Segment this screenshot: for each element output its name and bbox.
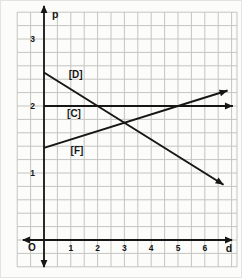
y-tick-label: 3: [30, 34, 35, 44]
series-label-d: [D]: [69, 69, 83, 80]
y-axis-label: p: [52, 8, 58, 20]
y-tick-label: 1: [30, 168, 35, 178]
x-tick-label: 4: [149, 243, 154, 253]
grid-lines: [17, 12, 237, 267]
series-label-f: [F]: [71, 145, 84, 156]
series-label-c: [C]: [67, 108, 81, 119]
x-tick-label: 5: [176, 243, 181, 253]
x-tick-label: 2: [95, 243, 100, 253]
chart-canvas: 123456123pdO[D][C][F]: [0, 0, 242, 278]
y-tick-label: 2: [30, 101, 35, 111]
x-tick-label: 1: [68, 243, 73, 253]
x-tick-label: 6: [202, 243, 207, 253]
series-arrow-f: [219, 87, 229, 96]
supply-demand-graph: 123456123pdO[D][C][F]: [0, 0, 242, 278]
origin-label: O: [28, 242, 36, 253]
x-tick-label: 3: [122, 243, 127, 253]
axes: [23, 6, 232, 267]
x-axis-label: d: [226, 242, 232, 254]
y-axis-arrow-up: [41, 5, 48, 13]
